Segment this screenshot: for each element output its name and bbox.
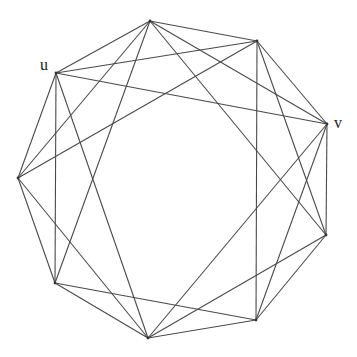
vertex-D [325, 234, 328, 237]
edge-A-v [150, 21, 327, 124]
edge-E-F [55, 283, 256, 320]
edge-B-u [56, 41, 257, 73]
vertex-F [255, 319, 258, 322]
edge-D-F [256, 235, 326, 320]
edge-layer [18, 21, 327, 338]
vertex-label-u: u [40, 56, 48, 73]
vertex-layer [17, 20, 329, 340]
vertex-E [54, 282, 57, 285]
edge-A-B [150, 21, 257, 41]
edge-u-E [55, 73, 56, 283]
edge-D-G [148, 235, 326, 338]
edge-u-C [18, 73, 56, 178]
vertex-u [55, 72, 58, 75]
edge-B-C [18, 41, 257, 178]
edge-A-D [150, 21, 326, 235]
edge-C-G [18, 178, 148, 338]
edge-B-v [257, 41, 327, 124]
label-layer: u v [40, 56, 342, 131]
graph-diagram: u v [0, 0, 357, 357]
edge-C-E [18, 178, 55, 283]
edge-v-F [256, 124, 327, 320]
vertex-A [149, 20, 152, 23]
vertex-label-v: v [334, 114, 342, 131]
vertex-C [17, 177, 20, 180]
edge-u-G [56, 73, 148, 338]
vertex-v [326, 123, 329, 126]
edge-v-D [326, 124, 327, 235]
vertex-B [256, 40, 259, 43]
edge-u-v [56, 73, 327, 124]
vertex-G [147, 337, 150, 340]
edge-v-G [148, 124, 327, 338]
